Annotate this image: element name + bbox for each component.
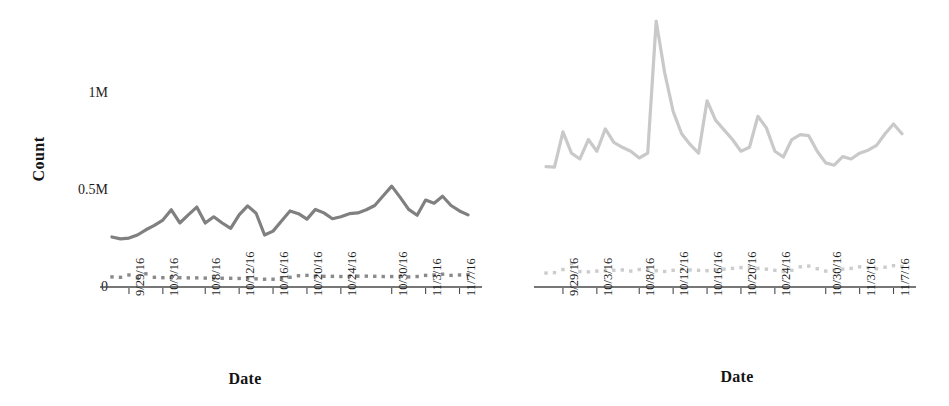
x-tick-label: 10/8/16 — [644, 258, 657, 296]
x-tick-label: 10/12/16 — [244, 252, 257, 296]
x-tick-label: 10/24/16 — [346, 252, 359, 296]
x-tick-label: 10/24/16 — [780, 252, 793, 296]
x-tick-label: 11/3/16 — [865, 258, 878, 296]
x-tick-label: 9/29/16 — [134, 258, 147, 296]
x-axis-title-right: Date — [672, 368, 802, 386]
x-tick-label: 11/3/16 — [431, 258, 444, 296]
x-tick-labels-left: 9/29/1610/3/1610/8/1610/12/1610/16/1610/… — [108, 296, 468, 366]
x-tick-label: 10/8/16 — [210, 258, 223, 296]
x-tick-label: 10/12/16 — [678, 252, 691, 296]
x-tick-label: 9/29/16 — [568, 258, 581, 296]
x-axis-title-left: Date — [180, 370, 310, 388]
x-tick-label: 10/16/16 — [712, 252, 725, 296]
chart-panel-left: Count 1M 0.5M 0 9/29/1610/3/1610/8/1610/… — [0, 0, 500, 406]
x-tick-label: 10/3/16 — [168, 258, 181, 296]
chart-panel-right: 9/29/1610/3/1610/8/1610/12/1610/16/1610/… — [470, 0, 949, 406]
figure-two-panel-line-charts: Count 1M 0.5M 0 9/29/1610/3/1610/8/1610/… — [0, 0, 949, 406]
x-tick-labels-right: 9/29/1610/3/1610/8/1610/12/1610/16/1610/… — [542, 296, 902, 366]
x-tick-label: 11/7/16 — [899, 258, 912, 296]
x-tick-label: 10/16/16 — [278, 252, 291, 296]
x-tick-label: 10/3/16 — [602, 258, 615, 296]
x-tick-label: 10/30/16 — [831, 252, 844, 296]
x-tick-label: 10/20/16 — [312, 252, 325, 296]
x-tick-label: 10/20/16 — [746, 252, 759, 296]
x-tick-label: 10/30/16 — [397, 252, 410, 296]
